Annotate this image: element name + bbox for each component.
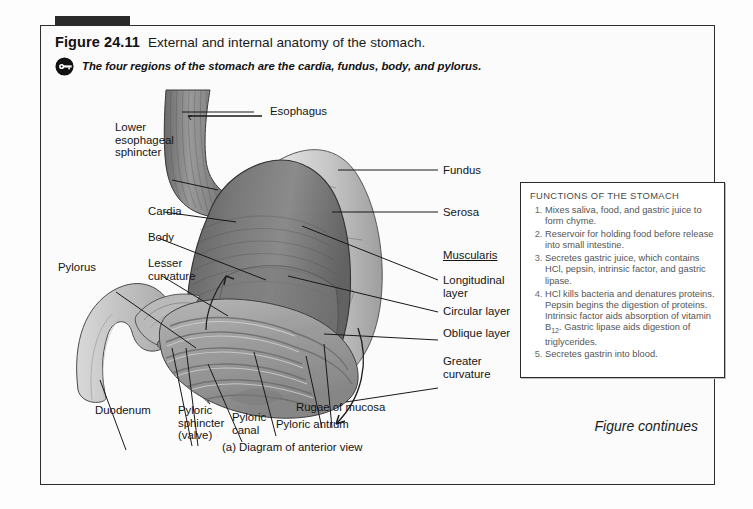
functions-list-item: Mixes saliva, food, and gastric juice to… <box>545 205 716 228</box>
functions-list-item: Secretes gastric juice, which contains H… <box>545 253 716 287</box>
label-longitudinal-layer: Longitudinal layer <box>443 274 504 299</box>
label-fundus: Fundus <box>443 164 481 177</box>
label-esophagus: Esophagus <box>270 105 327 118</box>
label-lesser-curvature: Lesser curvature <box>148 257 195 282</box>
functions-list-item: Reservoir for holding food before releas… <box>545 229 716 252</box>
label-oblique-layer: Oblique layer <box>443 327 510 340</box>
label-duodenum: Duodenum <box>95 404 151 417</box>
functions-list: Mixes saliva, food, and gastric juice to… <box>521 205 724 361</box>
accent-bar <box>55 16 130 25</box>
label-pyloric-sphincter: Pyloric sphincter (valve) <box>178 404 224 442</box>
label-cardia: Cardia <box>148 205 182 218</box>
figure-title: External and internal anatomy of the sto… <box>148 35 425 50</box>
label-muscularis: Muscularis <box>443 249 497 262</box>
functions-list-item: Secretes gastrin into blood. <box>545 349 716 360</box>
functions-box-heading: FUNCTIONS OF THE STOMACH <box>521 183 724 205</box>
label-circular-layer: Circular layer <box>443 305 510 318</box>
figure-caption: (a) Diagram of anterior view <box>222 441 363 453</box>
label-serosa: Serosa <box>443 206 479 219</box>
figure-page: Figure 24.11 External and internal anato… <box>0 0 753 509</box>
label-pyloric-canal: Pyloric canal <box>232 411 266 436</box>
functions-list-item: HCl kills bacteria and denatures protein… <box>545 289 716 348</box>
key-icon <box>55 57 74 76</box>
figure-continues-note: Figure continues <box>594 418 698 434</box>
key-point-text: The four regions of the stomach are the … <box>82 60 481 72</box>
label-pylorus: Pylorus <box>58 261 96 274</box>
label-rugae-of-mucosa: Rugae of mucosa <box>296 401 385 414</box>
label-pyloric-antrum: Pyloric antrum <box>276 418 349 431</box>
functions-of-stomach-box: FUNCTIONS OF THE STOMACH Mixes saliva, f… <box>520 182 725 378</box>
label-greater-curvature: Greater curvature <box>443 355 490 380</box>
figure-number: Figure 24.11 <box>55 34 140 50</box>
label-body: Body <box>148 231 174 244</box>
label-lower-esophageal-sphincter: Lower esophageal sphincter <box>115 121 174 159</box>
